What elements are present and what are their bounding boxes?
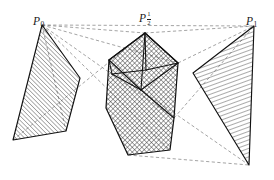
label-p-half-fraction: 12 [146, 11, 151, 26]
fraction-denominator: 2 [147, 20, 151, 27]
label-p1-base: P [246, 15, 253, 27]
label-p1: P1 [246, 12, 257, 29]
ray-centerbottom-p1bottom [128, 155, 249, 165]
label-p0-subscript: 0 [40, 20, 44, 29]
label-p1-subscript: 1 [253, 20, 257, 29]
fraction-numerator: 1 [147, 11, 151, 18]
polygon-p0 [13, 25, 80, 140]
polygon-p1 [193, 26, 254, 165]
label-p0: P0 [33, 12, 44, 29]
label-p-half: P12 [139, 9, 151, 27]
label-p-half-base: P [139, 12, 146, 24]
ray-p0-phalf [42, 25, 145, 33]
figure-canvas: P0 P12 P1 [0, 0, 274, 180]
ray-phalf-p1 [145, 26, 254, 33]
polygon-p-half [106, 33, 178, 155]
label-p0-base: P [33, 15, 40, 27]
